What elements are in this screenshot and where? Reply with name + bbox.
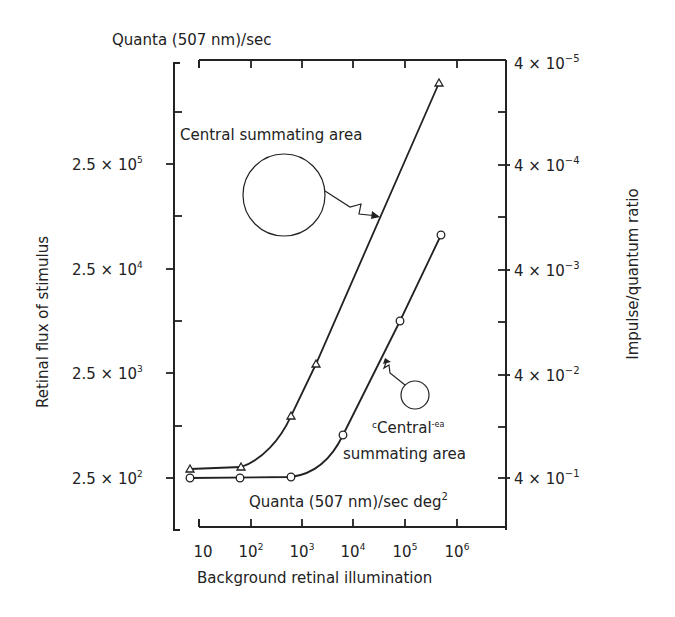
y2-tick-label: 4 × 10−1 (514, 468, 580, 488)
zigzag-arrow-icon (325, 191, 378, 216)
small-circle-icon (401, 381, 429, 409)
x-tick-label: 103 (290, 542, 315, 561)
y2-tick-label: 4 × 10−3 (514, 260, 580, 280)
y-tick-label: 2.5 × 105 (72, 155, 143, 174)
data-point-circle (437, 231, 445, 239)
annotation-large-area: Central summating area (180, 126, 380, 236)
data-point-triangle (287, 412, 295, 419)
data-point-circle (186, 474, 194, 482)
y-tick-label: 2.5 × 103 (72, 364, 143, 383)
bottom-axis-label: Background retinal illumination (197, 569, 432, 587)
annotation-small-area: cCentral-ea summating area (343, 358, 466, 463)
y2-tick-label: 4 × 10−4 (514, 155, 580, 175)
annotation-small-line1: cCentral-ea (372, 419, 444, 437)
data-point-triangle (435, 79, 443, 86)
data-point-circle (396, 317, 404, 325)
data-point-circle (287, 473, 295, 481)
x-tick-labels: 10 102 103 104 105 106 (193, 542, 469, 561)
y-tick-label: 2.5 × 104 (72, 260, 143, 279)
x-tick-label: 106 (445, 542, 470, 561)
left-axis-label: Retinal flux of stimulus (34, 236, 52, 408)
bottom-units-label: Quanta (507 nm)/sec deg2 (249, 491, 448, 511)
top-units-label: Quanta (507 nm)/sec (112, 31, 271, 49)
bottom-axis-ticks (251, 519, 457, 527)
x-tick-label: 10 (193, 543, 212, 561)
curve-small-area (190, 235, 441, 478)
annotation-small-line2: summating area (343, 445, 466, 463)
data-point-circle (339, 431, 347, 439)
data-point-circle (236, 474, 244, 482)
arrowhead-icon (371, 211, 380, 219)
data-point-triangle (312, 360, 320, 367)
x-tick-label: 102 (239, 542, 264, 561)
y2-tick-label: 4 × 10−2 (514, 365, 580, 385)
right-y-tick-labels: 4 × 10−5 4 × 10−4 4 × 10−3 4 × 10−2 4 × … (514, 53, 580, 488)
x-tick-label: 105 (393, 542, 418, 561)
x-tick-label: 104 (341, 542, 366, 561)
right-axis-ticks (498, 112, 510, 478)
top-axis-ticks (251, 60, 457, 68)
arrowhead-icon (383, 358, 391, 364)
y2-tick-label: 4 × 10−5 (514, 53, 580, 73)
large-circle-icon (243, 154, 325, 236)
zigzag-arrow-icon (384, 360, 405, 385)
left-y-tick-labels: 2.5 × 105 2.5 × 104 2.5 × 103 2.5 × 102 (72, 155, 143, 488)
right-axis-label: Impulse/quantum ratio (624, 188, 642, 359)
y-tick-label: 2.5 × 102 (72, 469, 143, 488)
annotation-large-title: Central summating area (180, 126, 362, 144)
chart: Quanta (507 nm)/sec 2.5 × 105 2.5 × 104 … (0, 0, 675, 617)
